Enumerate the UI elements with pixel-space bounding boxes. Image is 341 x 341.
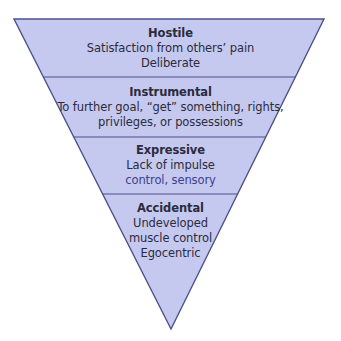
tier-description: muscle control (0, 231, 341, 246)
tier-description: Undeveloped (0, 216, 341, 231)
tier-title: Instrumental (0, 85, 341, 100)
aggression-pyramid-diagram: Hostile Satisfaction from others’ pain D… (0, 0, 341, 341)
tier-title: Hostile (0, 26, 341, 41)
tier-instrumental: Instrumental To further goal, “get” some… (0, 85, 341, 130)
tier-title: Expressive (0, 143, 341, 158)
tier-accidental: Accidental Undeveloped muscle control Eg… (0, 201, 341, 261)
tier-description: Egocentric (0, 246, 341, 261)
tier-description: control, sensory (0, 173, 341, 188)
tier-hostile: Hostile Satisfaction from others’ pain D… (0, 26, 341, 71)
tier-description: Satisfaction from others’ pain (0, 41, 341, 56)
tier-description: To further goal, “get” something, rights… (0, 100, 341, 115)
tier-expressive: Expressive Lack of impulse control, sens… (0, 143, 341, 188)
tier-description: Deliberate (0, 56, 341, 71)
tier-title: Accidental (0, 201, 341, 216)
tier-description: privileges, or possessions (0, 115, 341, 130)
tier-description: Lack of impulse (0, 158, 341, 173)
